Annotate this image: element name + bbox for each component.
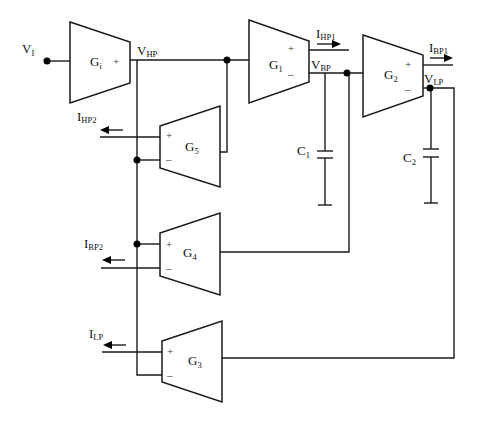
junction-g4-plus [134, 241, 141, 248]
wire-g5-output [220, 60, 227, 152]
ota-g3: G3 + – [162, 321, 222, 402]
junction-g5-minus [134, 157, 141, 164]
ota-g4-minus-sign: – [165, 262, 172, 274]
label-vi: VI [22, 41, 34, 58]
capacitor-c2: C2 [403, 149, 439, 203]
c1-label: C1 [297, 143, 310, 160]
junction-vbp [344, 70, 351, 77]
ota-g3-plus-sign: + [167, 345, 173, 357]
wire-vhp-feedback-bus [137, 60, 162, 375]
ota-c-filter-schematic: C1 C2 Gi + G1 + – G2 + – G5 + – G4 + – G [0, 0, 477, 427]
wire-g4-output-vbp [220, 73, 349, 252]
label-ibp2: IBP2 [84, 236, 103, 252]
label-ihp1: IHP1 [316, 26, 335, 42]
ota-g4: G4 + – [160, 213, 220, 295]
capacitor-c1: C1 [297, 143, 333, 205]
wire-g3-output-vlp [222, 88, 454, 358]
ota-g2-plus-sign: + [405, 58, 411, 70]
label-vbp: VBP [311, 57, 331, 73]
ota-g4-plus-sign: + [166, 238, 172, 250]
ota-g5-minus-sign: – [165, 153, 172, 165]
ota-gi-plus-sign: + [113, 55, 119, 67]
arrow-left-icon [102, 256, 111, 264]
ota-g1: G1 + – [249, 20, 309, 103]
ota-g3-minus-sign: – [166, 369, 173, 381]
arrow-left-icon [100, 126, 109, 134]
junction-vi [44, 58, 51, 65]
ota-g1-plus-sign: + [288, 42, 294, 54]
ota-g1-body [249, 20, 309, 103]
ota-gi: Gi + [70, 22, 130, 103]
arrow-left-icon [103, 341, 112, 349]
ota-g2: G2 + – [363, 35, 423, 117]
label-vlp: VLP [424, 71, 444, 87]
ota-g1-minus-sign: – [287, 68, 294, 80]
ota-g5-plus-sign: + [166, 129, 172, 141]
label-ihp2: IHP2 [77, 109, 96, 125]
c2-label: C2 [403, 150, 416, 167]
junction-vhp [224, 57, 231, 64]
label-ibp1: IBP1 [429, 40, 448, 56]
label-ilp: ILP [89, 326, 104, 342]
ota-g5: G5 + – [160, 106, 220, 187]
label-vhp: VHP [137, 43, 158, 59]
ota-g2-minus-sign: – [404, 83, 411, 95]
